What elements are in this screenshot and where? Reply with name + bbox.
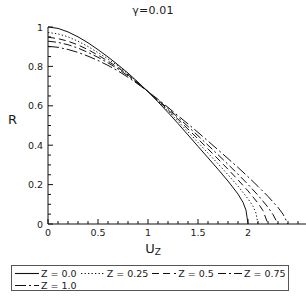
- legend-label: Z = 0.5: [178, 268, 214, 279]
- y-tick-label: 0.4: [28, 140, 43, 151]
- legend-box: Z = 0.0Z = 0.25Z = 0.5Z = 0.75 Z = 1.0: [11, 265, 289, 291]
- legend-line-sample-longdashdot: [14, 280, 40, 291]
- x-tick-label: 0: [45, 227, 51, 238]
- y-tick-label: 1: [37, 22, 43, 33]
- legend-label: Z = 0.0: [41, 268, 77, 279]
- ticks-group: [48, 27, 298, 224]
- curve-z-1-0: [48, 46, 288, 224]
- legend-entry[interactable]: Z = 0.75: [217, 268, 289, 279]
- legend-row: Z = 0.0Z = 0.25Z = 0.5Z = 0.75: [14, 267, 286, 279]
- x-tick-label: 2: [245, 227, 251, 238]
- y-tick-label: 0.6: [28, 100, 43, 111]
- curve-z-0-5: [48, 37, 268, 224]
- x-tick-label: 0.5: [90, 227, 105, 238]
- y-tick-label: 0.2: [28, 179, 43, 190]
- tick-labels-group: 00.511.5200.20.40.60.81: [28, 22, 251, 239]
- y-tick-label: 0.8: [28, 61, 43, 72]
- legend-label: Z = 1.0: [41, 280, 77, 291]
- legend-line-sample-dashdot: [217, 268, 243, 279]
- legend-label: Z = 0.75: [244, 268, 286, 279]
- legend-row: Z = 1.0: [14, 279, 286, 291]
- legend-label: Z = 0.25: [107, 268, 149, 279]
- axes-group: [48, 27, 306, 224]
- x-tick-label: 1.5: [190, 227, 205, 238]
- legend-entry[interactable]: Z = 0.5: [151, 268, 217, 279]
- x-tick-label: 1: [145, 227, 151, 238]
- y-tick-label: 0: [37, 219, 43, 230]
- curve-z-0-25: [48, 33, 258, 224]
- legend-entry[interactable]: Z = 0.25: [80, 268, 152, 279]
- figure-container: γ=0.01 R UZ 00.511.5200.20.40.60.81 Z = …: [0, 0, 306, 306]
- legend-line-sample-dashed: [151, 268, 177, 279]
- curve-z-0-0: [48, 27, 248, 224]
- legend-line-sample-solid: [14, 268, 40, 279]
- legend-entry[interactable]: Z = 0.0: [14, 268, 80, 279]
- legend-line-sample-dotted: [80, 268, 106, 279]
- data-curves-group: [48, 27, 288, 224]
- plot-area: 00.511.5200.20.40.60.81: [0, 0, 306, 306]
- legend-entry[interactable]: Z = 1.0: [14, 280, 80, 291]
- curve-z-0-75: [48, 41, 278, 224]
